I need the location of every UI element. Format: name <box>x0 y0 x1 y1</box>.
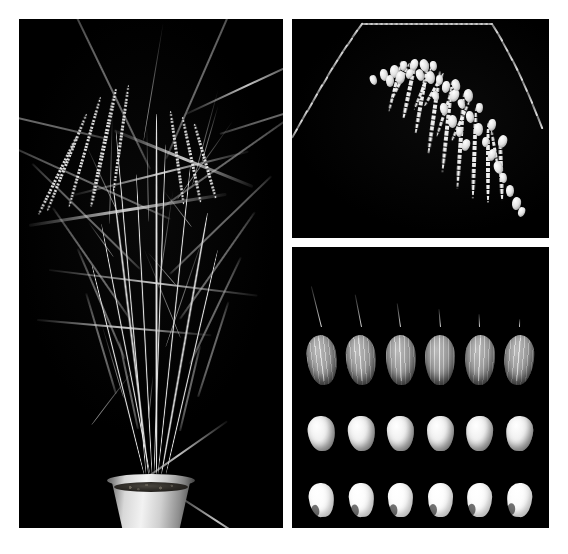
plant-hair <box>109 112 113 224</box>
grain-item <box>466 393 493 451</box>
grain-item <box>386 265 416 385</box>
rice-grain <box>344 334 378 386</box>
grain-item <box>309 459 334 517</box>
rice-grain <box>387 415 415 451</box>
rice-grain <box>465 415 494 451</box>
rice-grain <box>347 482 375 518</box>
panicle-spikelet <box>395 70 406 84</box>
rice-panicle-illustration <box>292 19 549 238</box>
plant-pot <box>107 468 195 528</box>
grain-item <box>504 265 534 385</box>
figure-composite <box>0 0 568 554</box>
rice-grain <box>502 334 536 386</box>
grain-item <box>506 393 533 451</box>
rice-grain <box>428 483 453 517</box>
plant-culm <box>155 114 158 474</box>
rice-grain <box>505 482 533 518</box>
panicle-panel <box>292 19 549 238</box>
grain-item <box>507 459 532 517</box>
panicle-spikelet <box>487 118 497 131</box>
grain-awn <box>311 286 322 327</box>
brown-rice-row <box>292 393 549 451</box>
pot-soil <box>114 482 188 492</box>
panicle-branch <box>486 123 490 203</box>
hulled-grain-row <box>292 265 549 385</box>
rice-grain <box>504 415 534 452</box>
grain-item <box>348 393 375 451</box>
grain-panel <box>292 247 549 528</box>
rice-grain <box>388 483 414 518</box>
grain-item <box>467 459 492 517</box>
grain-awn <box>397 303 402 327</box>
panicle-spikelet <box>463 88 474 102</box>
plant-culm <box>160 213 209 474</box>
rice-grain <box>346 415 376 452</box>
rice-grain <box>307 482 336 519</box>
grain-item <box>307 265 337 385</box>
plant-hair <box>143 23 164 141</box>
milled-rice-row <box>292 459 549 517</box>
grain-item <box>346 265 376 385</box>
panicle-spikelet <box>474 123 483 136</box>
grain-item <box>349 459 374 517</box>
grain-awn <box>354 294 361 327</box>
rice-grain <box>385 334 417 385</box>
whole-plant-panel <box>19 19 283 528</box>
grain-awn <box>519 319 520 327</box>
grain-item <box>308 393 335 451</box>
rice-grain <box>466 482 493 517</box>
grain-item <box>465 265 495 385</box>
panicle-spikelet <box>496 134 509 149</box>
pot-rim <box>107 474 195 487</box>
panicle-spikelet <box>506 185 514 197</box>
grain-item <box>425 265 455 385</box>
rice-grain <box>304 333 340 386</box>
rice-grain <box>464 334 496 385</box>
panicle-spikelet <box>476 103 483 113</box>
grain-awn <box>479 314 481 327</box>
rice-grain <box>306 414 337 452</box>
panicle-spikelet <box>369 74 379 86</box>
panicle-spikelet <box>386 75 394 87</box>
grain-item <box>388 459 413 517</box>
panicle-spikelet <box>431 90 441 102</box>
plant-leaf <box>66 19 151 169</box>
rice-grain <box>427 416 454 451</box>
grain-item <box>428 459 453 517</box>
rice-plant-illustration <box>19 19 283 528</box>
plant-leaf <box>52 207 131 319</box>
panicle-rachis <box>536 115 543 129</box>
panicle-spikelet <box>517 206 527 218</box>
grain-item <box>427 393 454 451</box>
grain-item <box>387 393 414 451</box>
rice-grain <box>425 335 455 385</box>
plant-leaf <box>165 19 241 159</box>
grain-awn <box>438 309 441 327</box>
